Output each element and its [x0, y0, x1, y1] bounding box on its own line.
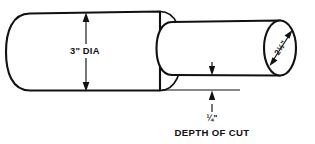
small-cylinder-body: [157, 21, 281, 76]
depth-of-cut-value-label: ¼": [206, 114, 217, 123]
depth-arrow-lower: [209, 91, 215, 101]
large-diameter-label: 3" DIA: [70, 45, 100, 56]
shaft-diagram-svg: 3" DIA 2½" ¼" DEPTH OF CUT: [0, 0, 315, 144]
depth-of-cut-caption: DEPTH OF CUT: [174, 127, 249, 138]
technical-drawing: 3" DIA 2½" ¼" DEPTH OF CUT: [0, 0, 315, 144]
